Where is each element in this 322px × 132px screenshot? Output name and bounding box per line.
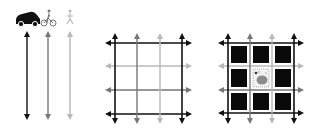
bicycle-icon	[41, 10, 56, 27]
street-grid-panel	[108, 36, 189, 121]
car-icon	[16, 12, 40, 27]
block	[253, 46, 269, 63]
pedestrian-icon	[67, 10, 73, 25]
block	[231, 46, 247, 63]
block	[275, 69, 291, 87]
street-hierarchy-diagram	[0, 0, 322, 132]
park-area	[257, 76, 268, 85]
block	[231, 69, 247, 87]
block	[275, 93, 291, 110]
park-cell	[253, 69, 269, 87]
block	[275, 46, 291, 63]
block	[253, 93, 269, 110]
block-grid-panel	[221, 36, 301, 121]
mode-legend-panel	[16, 10, 73, 118]
park-marker	[255, 72, 258, 75]
block	[231, 93, 247, 110]
